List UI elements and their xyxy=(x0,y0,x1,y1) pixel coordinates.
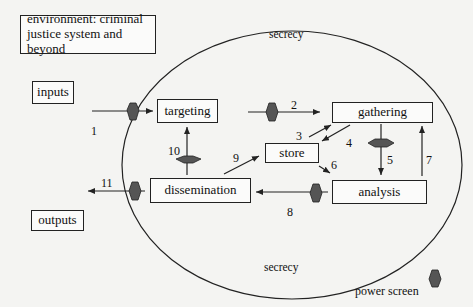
node-dissemination: dissemination xyxy=(150,178,251,203)
power-screen-icon xyxy=(127,103,139,120)
edge-label-1: 1 xyxy=(91,125,97,137)
node-gathering-label: gathering xyxy=(358,105,407,120)
node-store-label: store xyxy=(279,146,304,161)
power-screen-icon xyxy=(129,182,141,200)
edge-label-2: 2 xyxy=(291,99,297,111)
node-targeting: targeting xyxy=(157,99,218,123)
secrecy-boundary xyxy=(122,31,462,299)
legend-hexagon-icon xyxy=(429,270,441,287)
secrecy-label-bottom: secrecy xyxy=(264,262,298,274)
environment-line-1: environment: criminal xyxy=(27,12,155,27)
edge-9-arrow xyxy=(224,156,259,174)
edge-label-10: 10 xyxy=(168,145,180,157)
node-analysis-label: analysis xyxy=(359,185,401,200)
node-dissemination-label: dissemination xyxy=(164,183,236,198)
node-inputs-label: inputs xyxy=(37,85,69,100)
node-targeting-label: targeting xyxy=(165,104,211,119)
edge-label-11: 11 xyxy=(101,177,113,189)
secrecy-label-top: secrecy xyxy=(269,29,303,41)
power-screen-icon xyxy=(266,103,278,121)
edge-label-6: 6 xyxy=(331,159,337,171)
node-inputs: inputs xyxy=(32,81,74,104)
node-outputs: outputs xyxy=(31,210,84,231)
power-screen-icon xyxy=(310,184,322,202)
node-analysis: analysis xyxy=(332,180,427,204)
edge-label-7: 7 xyxy=(426,154,432,166)
environment-box: environment: criminal justice system and… xyxy=(20,15,156,54)
node-gathering: gathering xyxy=(332,102,433,123)
edge-label-3: 3 xyxy=(296,130,302,142)
power-screen-icon xyxy=(368,139,394,147)
edge-label-5: 5 xyxy=(387,154,393,166)
legend-label: power screen xyxy=(355,285,419,297)
edge-3-arrow xyxy=(309,125,331,137)
edge-label-9: 9 xyxy=(233,152,239,164)
environment-line-2: justice system and beyond xyxy=(27,27,155,57)
edge-6-arrow xyxy=(319,166,330,173)
edge-label-8: 8 xyxy=(287,206,293,218)
edge-label-4: 4 xyxy=(346,137,352,149)
node-outputs-label: outputs xyxy=(38,213,76,228)
node-store: store xyxy=(265,143,319,163)
